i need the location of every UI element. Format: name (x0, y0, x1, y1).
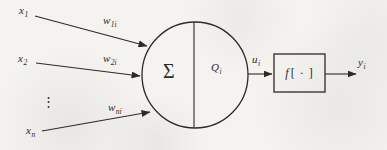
diagram-geometry (0, 0, 387, 150)
input-arrow-x2 (36, 63, 140, 76)
activation-function-symbol: f (285, 66, 288, 81)
sigma-glyph: Σ (163, 60, 175, 82)
weight-wni-subscript: ni (116, 107, 122, 116)
net-signal-label-ui: ui (252, 54, 260, 65)
ellipsis-glyph: ⋮ (42, 94, 55, 109)
inputs-ellipsis: ⋮ (42, 95, 55, 108)
weight-w1i-base: w (103, 14, 110, 26)
neuron-diagram: x1 x2 ⋮ xn w1i w2i wni Σ Qi ui f[ · ] yi (0, 0, 387, 150)
weight-w1i-subscript: 1i (111, 20, 117, 29)
threshold-subscript: i (219, 67, 221, 76)
input-label-xn: xn (26, 125, 35, 136)
output-label-yi: yi (358, 57, 365, 68)
input-x1-subscript: 1 (24, 10, 28, 19)
input-arrow-x1 (35, 16, 147, 46)
weight-wni-base: w (108, 101, 115, 113)
input-label-x1: x1 (19, 5, 28, 16)
input-arrow-xn (42, 112, 150, 131)
input-label-x2: x2 (18, 53, 27, 64)
summation-label: Σ (163, 61, 175, 81)
activation-function-label: f[ · ] (274, 54, 325, 92)
weight-label-w2i: w2i (103, 53, 117, 64)
weight-w2i-base: w (103, 52, 110, 64)
net-signal-subscript: i (258, 59, 260, 68)
soma-circle (142, 22, 248, 128)
input-x2-subscript: 2 (23, 58, 27, 67)
net-signal-base: u (252, 53, 258, 65)
threshold-base: Q (211, 61, 219, 73)
input-xn-subscript: n (31, 130, 35, 139)
threshold-label-Qi: Qi (211, 62, 222, 73)
weight-label-wni: wni (108, 102, 122, 113)
weight-label-w1i: w1i (103, 15, 117, 26)
weight-w2i-subscript: 2i (111, 58, 117, 67)
activation-function-argument: [ · ] (291, 66, 314, 81)
